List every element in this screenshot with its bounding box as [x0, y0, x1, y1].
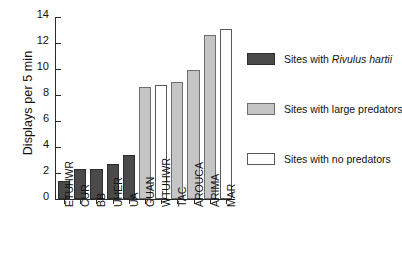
y-axis-title: Displays per 5 min — [21, 13, 35, 193]
y-axis-tick-label: 6 — [43, 113, 49, 124]
y-axis-tick-label: 10 — [37, 61, 49, 72]
legend-swatch-icon — [247, 53, 275, 65]
bar[interactable] — [171, 82, 183, 199]
plot-area: 02468101214 ETUHWRCURBBUHERUAGUANWTUHWRT… — [56, 17, 234, 199]
y-axis-tick-label: 0 — [43, 191, 49, 202]
bar-slot: MAR — [218, 17, 234, 199]
legend-item-large-predators[interactable]: Sites with large predators — [247, 102, 402, 116]
bar-slot: TAC — [169, 17, 185, 199]
legend-item-label: Sites with no predators — [284, 153, 391, 165]
legend-swatch-icon — [247, 153, 275, 165]
bar[interactable] — [220, 29, 232, 199]
legend-swatch-icon — [247, 103, 275, 115]
y-axis-tick-label: 12 — [37, 35, 49, 46]
legend-item-no-predators[interactable]: Sites with no predators — [247, 152, 391, 166]
bar-slot: AROUCA — [185, 17, 201, 199]
legend-item-rivulus[interactable]: Sites with Rivulus hartii — [247, 52, 392, 66]
y-axis-tick-label: 2 — [43, 165, 49, 176]
y-axis-tick-label: 14 — [37, 9, 49, 20]
y-axis-tick-label: 4 — [43, 139, 49, 150]
bar-series: ETUHWRCURBBUHERUAGUANWTUHWRTACAROUCAARIM… — [56, 17, 234, 199]
bar-slot: ETUHWR — [56, 17, 72, 199]
y-axis-tick-label: 8 — [43, 87, 49, 98]
legend-item-label: Sites with large predators — [284, 103, 402, 115]
bar-slot: ARIMA — [202, 17, 218, 199]
x-axis-tick-label: MAR — [226, 184, 237, 207]
bar-slot: CUR — [72, 17, 88, 199]
bar-slot: WTUHWR — [153, 17, 169, 199]
legend-item-label: Sites with Rivulus hartii — [284, 53, 392, 65]
bar-slot: GUAN — [137, 17, 153, 199]
bar-slot: UA — [121, 17, 137, 199]
bar-slot: UHER — [105, 17, 121, 199]
bar-slot: BB — [88, 17, 104, 199]
